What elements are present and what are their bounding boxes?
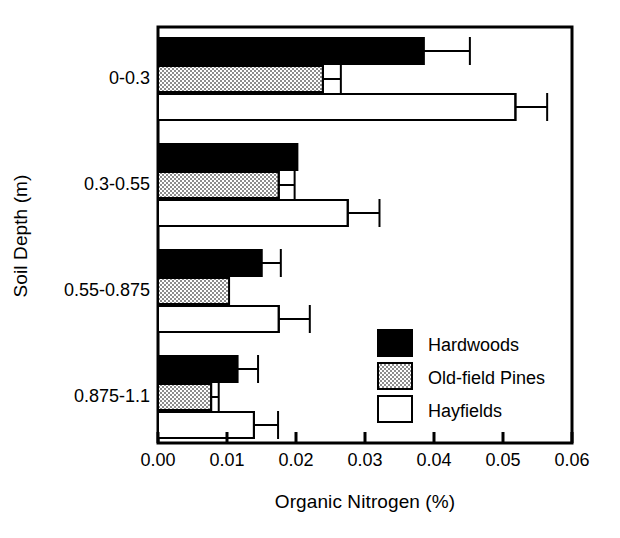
bar-hayfields-0-0.3	[158, 94, 515, 120]
legend-swatch-hayfields	[378, 396, 412, 422]
legend-label-old-field-pines: Old-field Pines	[428, 368, 545, 388]
y-category-label-0.3-0.55: 0.3-0.55	[84, 174, 150, 194]
figure-root: 0.000.010.020.030.040.050.06 0-0.30.3-0.…	[0, 0, 620, 538]
bar-old-field-pines-0.875-1.1	[158, 384, 211, 410]
y-category-label-0.55-0.875: 0.55-0.875	[64, 280, 150, 300]
bar-hardwoods-0.3-0.55	[158, 144, 297, 170]
organic-nitrogen-bar-chart: 0.000.010.020.030.040.050.06 0-0.30.3-0.…	[0, 0, 620, 538]
bar-old-field-pines-0.3-0.55	[158, 172, 279, 198]
x-tick-label-0.03: 0.03	[347, 450, 382, 470]
y-category-label-0.875-1.1: 0.875-1.1	[74, 386, 150, 406]
bar-old-field-pines-0-0.3	[158, 66, 323, 92]
legend-swatch-hardwoods	[378, 330, 412, 356]
bar-hardwoods-0.875-1.1	[158, 356, 237, 382]
bar-hayfields-0.875-1.1	[158, 412, 254, 438]
bar-hayfields-0.55-0.875	[158, 306, 279, 332]
y-category-label-0-0.3: 0-0.3	[109, 68, 150, 88]
x-tick-label-0.01: 0.01	[209, 450, 244, 470]
x-tick-label-0.04: 0.04	[416, 450, 451, 470]
legend-label-hardwoods: Hardwoods	[428, 335, 519, 355]
y-axis-title: Soil Depth (m)	[10, 175, 31, 298]
bar-old-field-pines-0.55-0.875	[158, 278, 229, 304]
x-tick-label-0.05: 0.05	[485, 450, 520, 470]
x-tick-label-0.00: 0.00	[140, 450, 175, 470]
x-tick-label-0.02: 0.02	[278, 450, 313, 470]
bar-hardwoods-0.55-0.875	[158, 250, 262, 276]
bar-hayfields-0.3-0.55	[158, 200, 348, 226]
bar-hardwoods-0-0.3	[158, 38, 424, 64]
legend-label-hayfields: Hayfields	[428, 401, 502, 421]
x-axis-title: Organic Nitrogen (%)	[275, 491, 455, 512]
x-tick-label-0.06: 0.06	[554, 450, 589, 470]
legend-swatch-old-field-pines	[378, 363, 412, 389]
